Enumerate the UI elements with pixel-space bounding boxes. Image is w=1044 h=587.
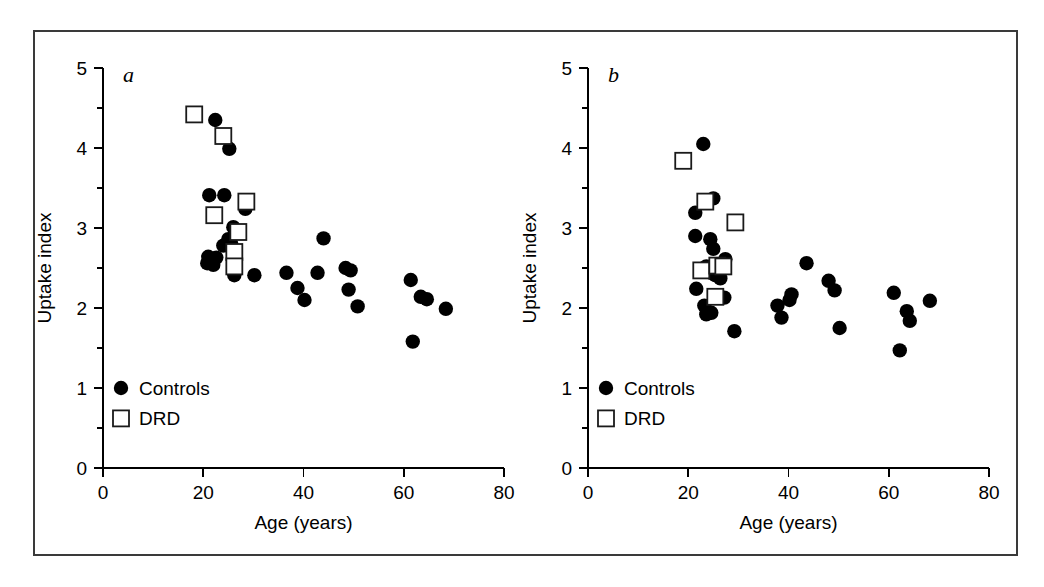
- panel-letter-b: b: [608, 62, 619, 87]
- x-tick-label: 20: [193, 482, 214, 503]
- scatter-plot-b: 012345020406080Age (years)Uptake indexbC…: [485, 0, 1005, 587]
- x-tick-label: 0: [583, 482, 594, 503]
- y-tick-label: 0: [76, 458, 87, 479]
- x-axis-title: Age (years): [739, 512, 837, 533]
- legend-label-drd: DRD: [624, 408, 665, 429]
- data-point-control: [696, 137, 710, 151]
- data-point-control: [893, 343, 907, 357]
- data-point-control: [202, 188, 216, 202]
- legend-marker-drd: [598, 410, 614, 426]
- legend-marker-control: [114, 381, 128, 395]
- data-point-control: [832, 321, 846, 335]
- y-tick-label: 5: [561, 58, 572, 79]
- x-tick-label: 60: [393, 482, 414, 503]
- y-tick-label: 4: [561, 138, 572, 159]
- legend-label-controls: Controls: [139, 378, 210, 399]
- x-tick-label: 20: [678, 482, 699, 503]
- panel-a: 012345020406080Age (years)Uptake indexaC…: [0, 0, 520, 587]
- data-point-drd: [727, 214, 743, 230]
- data-point-control: [727, 324, 741, 338]
- legend-marker-control: [599, 381, 613, 395]
- data-point-drd: [697, 194, 713, 210]
- panel-b: 012345020406080Age (years)Uptake indexbC…: [485, 0, 1005, 587]
- data-point-control: [406, 334, 420, 348]
- data-point-control: [784, 287, 798, 301]
- y-tick-label: 5: [76, 58, 87, 79]
- data-point-drd: [238, 194, 254, 210]
- data-point-control: [310, 266, 324, 280]
- x-tick-label: 60: [878, 482, 899, 503]
- x-axis-title: Age (years): [254, 512, 352, 533]
- scatter-plot-a: 012345020406080Age (years)Uptake indexaC…: [0, 0, 520, 587]
- data-point-drd: [230, 224, 246, 240]
- data-point-drd: [707, 289, 723, 305]
- y-axis-title: Uptake index: [519, 212, 540, 323]
- data-point-control: [439, 302, 453, 316]
- data-point-control: [217, 188, 231, 202]
- y-tick-label: 3: [561, 218, 572, 239]
- y-tick-label: 2: [561, 298, 572, 319]
- data-point-control: [688, 229, 702, 243]
- y-tick-label: 1: [76, 378, 87, 399]
- data-point-control: [208, 113, 222, 127]
- figure-root: 012345020406080Age (years)Uptake indexaC…: [0, 0, 1044, 587]
- data-point-control: [689, 282, 703, 296]
- data-point-control: [297, 293, 311, 307]
- data-point-drd: [186, 106, 202, 122]
- data-point-control: [704, 306, 718, 320]
- x-tick-label: 0: [98, 482, 109, 503]
- data-point-drd: [675, 153, 691, 169]
- data-point-control: [341, 282, 355, 296]
- data-point-control: [706, 242, 720, 256]
- data-point-control: [887, 286, 901, 300]
- data-point-control: [827, 283, 841, 297]
- data-point-control: [903, 314, 917, 328]
- data-point-drd: [693, 262, 709, 278]
- data-point-control: [279, 266, 293, 280]
- data-point-control: [404, 273, 418, 287]
- data-point-control: [343, 263, 357, 277]
- x-tick-label: 40: [293, 482, 314, 503]
- data-point-control: [247, 268, 261, 282]
- data-point-control: [774, 310, 788, 324]
- data-point-control: [350, 299, 364, 313]
- data-point-drd: [226, 258, 242, 274]
- data-point-control: [420, 292, 434, 306]
- legend-marker-drd: [113, 410, 129, 426]
- x-tick-label: 40: [778, 482, 799, 503]
- data-point-control: [799, 256, 813, 270]
- data-point-control: [923, 294, 937, 308]
- panel-letter-a: a: [123, 62, 134, 87]
- y-axis-title: Uptake index: [34, 212, 55, 323]
- y-tick-label: 1: [561, 378, 572, 399]
- x-tick-label: 80: [978, 482, 999, 503]
- y-tick-label: 2: [76, 298, 87, 319]
- data-point-control: [206, 258, 220, 272]
- y-tick-label: 0: [561, 458, 572, 479]
- legend-label-controls: Controls: [624, 378, 695, 399]
- data-point-drd: [715, 258, 731, 274]
- data-point-drd: [215, 128, 231, 144]
- data-point-control: [290, 281, 304, 295]
- y-tick-label: 3: [76, 218, 87, 239]
- y-tick-label: 4: [76, 138, 87, 159]
- legend-label-drd: DRD: [139, 408, 180, 429]
- data-point-control: [316, 231, 330, 245]
- data-point-drd: [206, 207, 222, 223]
